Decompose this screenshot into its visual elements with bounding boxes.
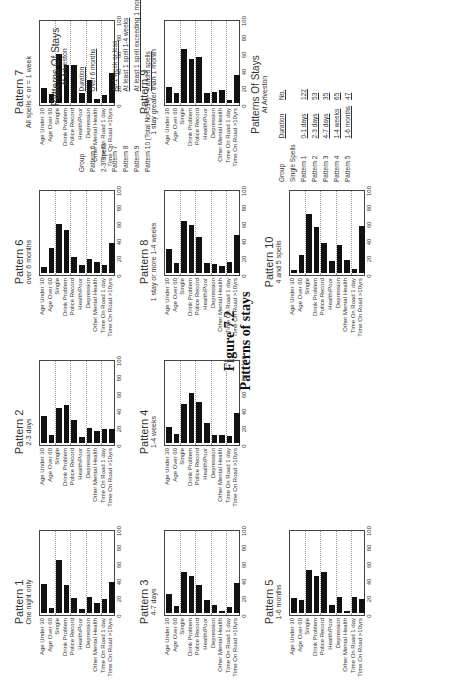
bar: [234, 413, 240, 443]
category-label: Single: [304, 618, 311, 635]
category-label: Drink Problem: [312, 618, 319, 656]
bar: [227, 607, 233, 613]
category-label: Police Record: [194, 448, 201, 485]
bars: [165, 361, 239, 445]
axis-tick: 0: [116, 614, 122, 617]
category-label: Other Mental Health: [217, 448, 224, 502]
chart-subtitle: 4 and 5 spells: [275, 182, 283, 342]
axis-tick: 0: [241, 444, 247, 447]
category-label: Depression: [335, 618, 342, 648]
bar: [174, 93, 180, 103]
axis-tick: 100: [241, 526, 247, 536]
axis-tick: 60: [116, 222, 122, 229]
category-labels: Age Under 30Age Over 60SingleDrink Probl…: [289, 618, 365, 682]
axis-tick: 0: [116, 444, 122, 447]
axis-tick: 20: [116, 426, 122, 433]
bar: [212, 435, 218, 443]
bars: [290, 531, 364, 615]
category-label: Age Over 60: [297, 618, 304, 652]
bar: [109, 243, 115, 273]
plot-area: [164, 530, 240, 616]
category-label: Age Under 30: [164, 108, 171, 145]
bar: [71, 598, 77, 613]
category-label: Depression: [210, 448, 217, 478]
table-row: Pattern 41-4 weeks65: [331, 83, 342, 182]
category-label: Age Over 60: [47, 618, 54, 652]
bar: [174, 263, 180, 273]
category-label: Age Under 30: [164, 278, 171, 315]
category-label: Health/Poor: [327, 278, 334, 310]
plot-area: [164, 190, 240, 276]
table-row: Pattern 34-7 days35: [320, 83, 331, 182]
bar: [41, 88, 47, 103]
chart-subtitle: All spells < or = 1 week: [25, 12, 33, 172]
chart-subtitle: over 6 months: [25, 182, 33, 342]
bar: [71, 420, 77, 443]
bar: [314, 576, 320, 613]
bar: [109, 429, 115, 443]
bar: [189, 225, 195, 273]
category-label: Other Mental Health: [92, 448, 99, 502]
axis-tick: 40: [241, 409, 247, 416]
axis-tick: 0: [241, 614, 247, 617]
chart-panel-pattern-5: Pattern 51-6 monthsAge Under 30Age Over …: [263, 522, 383, 682]
bar: [306, 570, 312, 613]
category-label: Other Mental Health: [92, 278, 99, 332]
plot-area: [289, 530, 365, 616]
category-label: Other Mental Health: [342, 278, 349, 332]
category-label: Depression: [85, 448, 92, 478]
category-label: Time On Road 1 day: [350, 278, 357, 333]
axis-ticks: 020406080100: [116, 360, 126, 446]
category-label: Health/Poor: [327, 618, 334, 650]
category-label: Health/Poor: [202, 618, 209, 650]
col-header-duration: Duration: [276, 100, 287, 139]
bar: [352, 597, 358, 613]
category-label: Drink Problem: [187, 448, 194, 486]
category-label: Police Record: [194, 108, 201, 145]
table-row: Pattern 8At least 1 spell 1-4 weeks44: [120, 0, 131, 172]
category-label: Age Under 30: [289, 278, 296, 315]
bar: [299, 600, 305, 613]
axis-tick: 20: [241, 86, 247, 93]
category-label: Time On Road >10yrs: [232, 108, 239, 167]
bar: [41, 267, 47, 273]
axis-ticks: 020406080100: [366, 190, 376, 276]
table-single-spells: Patterns Of Stays At Arlveston Group Dur…: [250, 7, 353, 182]
category-labels: Age Under 30Age Over 60SingleDrink Probl…: [164, 108, 240, 172]
table-row: Pattern 22-3 days53: [309, 83, 320, 182]
category-label: Other Mental Health: [342, 618, 349, 672]
category-label: Time On Road >10yrs: [232, 448, 239, 507]
category-label: Police Record: [69, 278, 76, 315]
chart-subtitle: One night only: [25, 522, 33, 682]
category-label: Single: [179, 278, 186, 295]
category-label: Other Mental Health: [217, 108, 224, 162]
axis-ticks: 020406080100: [241, 190, 251, 276]
axis-tick: 100: [241, 16, 247, 26]
axis-tick: 80: [241, 375, 247, 382]
category-label: Depression: [210, 108, 217, 138]
bar: [344, 260, 350, 273]
category-label: Depression: [335, 278, 342, 308]
bar: [196, 237, 202, 273]
bar: [189, 59, 195, 103]
bar: [56, 224, 62, 273]
axis-tick: 100: [116, 526, 122, 536]
table-multiple-spells: Patterns Of Stays At Arlveston Group Dur…: [50, 0, 153, 172]
category-label: Time On Road >10yrs: [107, 278, 114, 337]
bar: [291, 270, 297, 273]
bar: [227, 262, 233, 273]
bars: [165, 191, 239, 275]
category-label: Age Over 60: [172, 108, 179, 142]
chart-title: Pattern 1: [13, 522, 25, 682]
category-label: Health/Poor: [77, 448, 84, 480]
figure-page: Figure 7.2 Patterns of stays Pattern 1On…: [0, 0, 453, 682]
bar: [94, 431, 100, 443]
axis-tick: 80: [241, 35, 247, 42]
col-header-no: No.: [276, 83, 287, 100]
axis-tick: 60: [366, 222, 372, 229]
axis-tick: 40: [241, 69, 247, 76]
table-row: Pattern 51-6 months47: [342, 83, 353, 182]
category-label: Age Under 30: [39, 278, 46, 315]
axis-tick: 60: [116, 562, 122, 569]
bars: [40, 361, 114, 445]
